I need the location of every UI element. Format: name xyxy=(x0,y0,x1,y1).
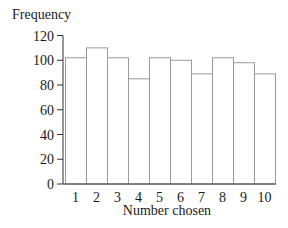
x-tick-label: 10 xyxy=(258,190,272,205)
x-tick-label: 1 xyxy=(72,190,79,205)
x-tick-label: 3 xyxy=(114,190,121,205)
y-tick-label: 0 xyxy=(47,177,54,192)
y-axis-label: Frequency xyxy=(12,7,71,22)
bar-8 xyxy=(213,58,234,184)
y-tick-label: 20 xyxy=(40,152,54,167)
y-tick-label: 60 xyxy=(40,103,54,118)
bar-7 xyxy=(192,74,213,184)
bar-6 xyxy=(171,60,192,184)
bar-2 xyxy=(87,48,108,184)
bar-5 xyxy=(150,58,171,184)
x-axis: 12345678910 xyxy=(63,184,276,205)
y-tick-label: 100 xyxy=(33,53,54,68)
y-tick-label: 80 xyxy=(40,78,54,93)
x-tick-label: 9 xyxy=(240,190,247,205)
bar-4 xyxy=(129,79,150,184)
bar-chart: Frequency 020406080100120 12345678910 Nu… xyxy=(0,0,288,228)
bar-1 xyxy=(66,58,87,184)
x-tick-label: 8 xyxy=(219,190,226,205)
y-axis: 020406080100120 xyxy=(33,29,63,193)
bar-9 xyxy=(234,63,255,184)
x-axis-label: Number chosen xyxy=(123,203,211,218)
x-tick-label: 2 xyxy=(93,190,100,205)
y-tick-label: 40 xyxy=(40,128,54,143)
bar-10 xyxy=(255,74,276,184)
y-tick-label: 120 xyxy=(33,29,54,44)
bar-3 xyxy=(108,58,129,184)
bars xyxy=(66,48,276,184)
